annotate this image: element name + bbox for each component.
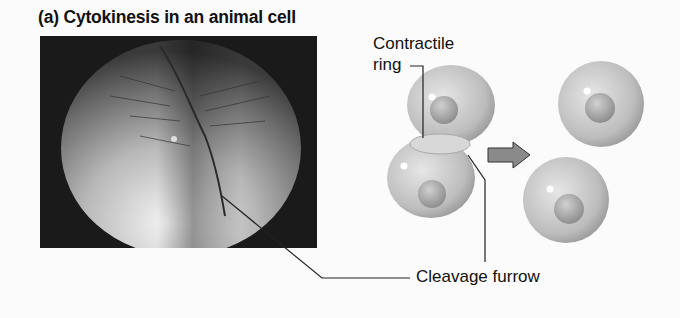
cleavage-furrow-leader-photo [222, 196, 410, 278]
contractile-ring-label-line2: ring [373, 55, 401, 75]
arrow-icon [488, 142, 530, 168]
dividing-cell [387, 65, 495, 218]
contractile-ring-label-line1: Contractile [373, 34, 454, 54]
cleavage-furrow-label: Cleavage furrow [416, 267, 540, 287]
daughter-cells [523, 61, 644, 243]
diagram-layer [0, 0, 680, 318]
